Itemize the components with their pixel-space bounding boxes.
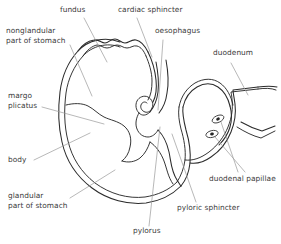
leader-duodenal-papilla-lower	[215, 137, 245, 172]
cardiac-sphincter-swirl	[136, 96, 158, 137]
label-pylorus: pylorus	[133, 226, 161, 236]
label-nonglandular-part-of-stomach-line2: part of stomach	[6, 36, 65, 46]
label-pyloric-sphincter: pyloric sphincter	[177, 203, 240, 213]
anatomy-diagram: fundus cardiac sphincter oesophagus duod…	[0, 0, 281, 244]
stomach-inner-wall	[65, 45, 177, 198]
greater-curvature-upper	[146, 52, 156, 102]
duodenal-papilla-upper	[211, 113, 225, 124]
label-margo-plicatus-line2: plicatus	[8, 101, 37, 111]
duodenal-papilla-lower	[205, 129, 219, 139]
label-glandular-part-of-stomach-line1: glandular	[8, 191, 43, 201]
label-margo-plicatus-line1: margo	[8, 91, 32, 101]
label-oesophagus: oesophagus	[155, 26, 200, 36]
label-duodenal-papillae: duodenal papillae	[209, 174, 276, 184]
leader-glandular	[70, 170, 115, 198]
leader-cardiac-sphincter	[137, 18, 152, 57]
leader-body	[34, 133, 90, 160]
label-duodenum: duodenum	[213, 48, 253, 58]
label-fundus: fundus	[60, 5, 86, 15]
fundus-dome	[78, 39, 148, 56]
label-body: body	[8, 155, 26, 165]
leader-margo-plicatus	[42, 107, 104, 124]
label-nonglandular-part-of-stomach-line1: nonglandular	[6, 26, 55, 36]
leader-pylorus	[149, 127, 160, 226]
duodenum-tube	[179, 79, 233, 107]
pyloric-sphincter	[177, 107, 190, 186]
label-glandular-part-of-stomach-line2: part of stomach	[8, 201, 67, 211]
leader-oesophagus	[158, 40, 163, 110]
margo-plicatus-line	[66, 104, 150, 162]
leader-fundus	[84, 18, 107, 62]
label-cardiac-sphincter: cardiac sphincter	[118, 5, 183, 15]
